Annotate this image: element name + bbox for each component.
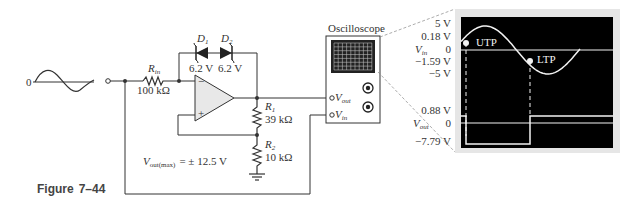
- d1-label: D1: [196, 32, 208, 46]
- vout-name-label: Vout: [413, 117, 430, 131]
- vin-bottom-label: −5 V: [429, 67, 451, 79]
- input-sine-icon: [33, 70, 94, 91]
- opamp-plus: +: [198, 107, 204, 119]
- r2-label: R2: [264, 138, 276, 152]
- vout-high-label: 0.88 V: [421, 104, 451, 116]
- vin-zero-label: 0: [446, 43, 452, 55]
- schematic-diagram: 0 Rin 100 kΩ D1 D2 6.2 V 6.2 V − + R1 39…: [0, 0, 620, 209]
- rin-value: 100 kΩ: [137, 84, 170, 96]
- opamp-minus: −: [198, 75, 204, 87]
- r1-value: 39 kΩ: [265, 113, 292, 125]
- scope-vout-terminal[interactable]: [330, 96, 334, 100]
- vout-max-label: Vout(max)= ± 12.5 V: [143, 155, 227, 169]
- r1-resistor-icon: [253, 98, 261, 135]
- vin-ltp-label: −1.59 V: [415, 55, 451, 67]
- vout-low-label: −7.79 V: [415, 135, 451, 147]
- utp-marker-label: UTP: [476, 36, 497, 48]
- d2-label: D2: [220, 32, 233, 46]
- vout-zero-label: 0: [446, 117, 452, 129]
- d2-value: 6.2 V: [218, 62, 242, 74]
- vin-utp-label: 0.18 V: [421, 30, 451, 42]
- scope-vin-terminal[interactable]: [330, 113, 334, 117]
- ltp-marker-label: LTP: [537, 53, 556, 65]
- oscilloscope-screen-icon: [331, 40, 375, 73]
- input-terminal: [106, 79, 111, 84]
- scope-knob-icon: [363, 83, 373, 93]
- oscilloscope-title: Oscilloscope: [328, 22, 385, 34]
- ground-icon: [249, 174, 265, 180]
- r2-resistor-icon: [253, 135, 261, 174]
- scope-knob-icon: [363, 102, 373, 112]
- figure-label: Figure7–44: [37, 182, 106, 196]
- d2-zener-icon: [220, 43, 234, 63]
- d1-value: 6.2 V: [189, 62, 213, 74]
- r2-value: 10 kΩ: [265, 151, 292, 163]
- rin-label: Rin: [147, 62, 161, 76]
- d1-zener-icon: [194, 43, 208, 63]
- input-zero-label: 0: [26, 76, 32, 88]
- r1-label: R1: [264, 100, 275, 114]
- vin-top-label: 5 V: [435, 17, 451, 29]
